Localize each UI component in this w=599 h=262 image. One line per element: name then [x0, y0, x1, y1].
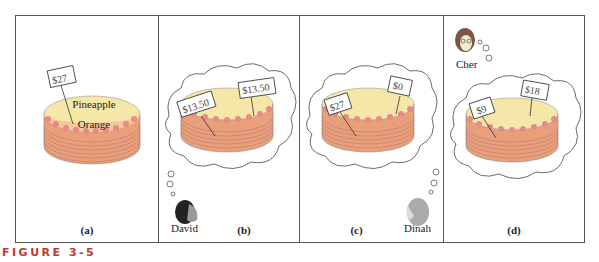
person-name: Cher [456, 58, 477, 70]
panel-d: $9 $18 Cher (d) [444, 16, 584, 242]
thought-cloud-cake [300, 16, 443, 242]
panel-c: $27 $0 Dinah (c) [300, 16, 443, 242]
panel-label: (d) [444, 224, 584, 236]
david-avatar-icon [175, 200, 197, 224]
thought-cloud-cake [444, 16, 584, 242]
panel-label: (c) [300, 224, 413, 236]
cher-avatar-icon [455, 28, 475, 52]
panel-b: $13.50 $13.50 David (b) [159, 16, 299, 242]
panel-label: (b) [189, 224, 299, 236]
panel-label: (a) [16, 224, 158, 236]
figure-caption: FIGURE 3-5 [2, 246, 96, 259]
cake-illustration [16, 16, 158, 242]
thought-cloud-cake [159, 16, 299, 242]
panel-a: $27 Pineapple Orange (a) [16, 16, 158, 242]
